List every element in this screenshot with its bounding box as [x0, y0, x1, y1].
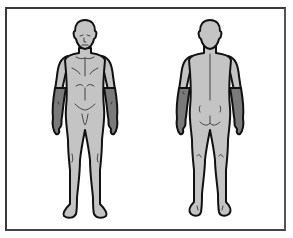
- back-left-forearm: [177, 88, 190, 134]
- front-right-forearm: [104, 88, 117, 134]
- front-left-forearm: [53, 88, 66, 134]
- back-right-forearm: [230, 88, 243, 134]
- body-diagram: [0, 0, 293, 238]
- back-head: [199, 20, 222, 49]
- front-body-figure: [53, 20, 118, 218]
